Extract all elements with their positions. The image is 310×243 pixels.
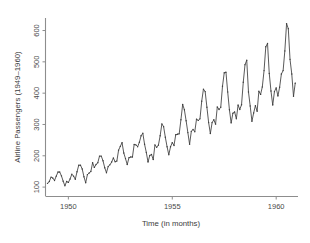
data-point (243, 82, 244, 83)
data-point (203, 88, 204, 89)
data-point (139, 142, 140, 143)
data-point (239, 109, 240, 110)
data-point (153, 159, 154, 160)
data-point (179, 133, 180, 134)
data-point (114, 161, 115, 162)
data-point (47, 183, 48, 184)
data-point (279, 87, 280, 88)
data-point (146, 152, 147, 153)
data-point (229, 109, 230, 110)
data-point (49, 181, 50, 182)
data-point (68, 182, 69, 183)
data-point (234, 111, 235, 112)
data-point (204, 91, 205, 92)
y-tick-label: 500 (32, 56, 41, 69)
data-point (121, 142, 122, 143)
data-point (185, 120, 186, 121)
data-point (101, 155, 102, 156)
data-point (256, 111, 257, 112)
data-point (128, 157, 129, 158)
data-point (275, 87, 276, 88)
data-point (104, 167, 105, 168)
y-axis-tick-labels: 100200300400500600 (32, 24, 41, 193)
data-point (99, 155, 100, 156)
data-point (265, 46, 266, 47)
data-point (206, 107, 207, 108)
y-tick-label: 100 (32, 181, 41, 194)
data-point (83, 176, 84, 177)
data-point (97, 162, 98, 163)
data-point (75, 179, 76, 180)
y-axis-title: Airline Passengers (1949–1960) (13, 51, 22, 163)
data-point (147, 161, 148, 162)
data-point (107, 166, 108, 167)
data-point (172, 142, 173, 143)
data-point (288, 28, 289, 29)
airline-passengers-line (48, 24, 296, 186)
data-point (198, 120, 199, 121)
data-point (73, 175, 74, 176)
data-point (159, 135, 160, 136)
data-point (111, 161, 112, 162)
data-point (213, 119, 214, 120)
data-point (175, 134, 176, 135)
data-point (154, 144, 155, 145)
data-point (251, 121, 252, 122)
data-point (163, 126, 164, 127)
chart-figure: 100200300400500600 195019551960 Airline … (0, 0, 310, 243)
data-point (230, 122, 231, 123)
data-point (191, 131, 192, 132)
data-point (250, 105, 251, 106)
data-point (187, 132, 188, 133)
data-point (220, 107, 221, 108)
data-point (232, 113, 233, 114)
data-point (201, 101, 202, 102)
data-point (95, 164, 96, 165)
data-point (50, 176, 51, 177)
data-point (210, 133, 211, 134)
data-point (144, 144, 145, 145)
data-point (158, 144, 159, 145)
data-point (180, 119, 181, 120)
data-point (102, 160, 103, 161)
data-point (281, 73, 282, 74)
x-axis-title: Time (in months) (142, 219, 201, 228)
data-point (248, 91, 249, 92)
data-point (255, 105, 256, 106)
y-tick-label: 600 (32, 24, 41, 37)
data-point (166, 146, 167, 147)
data-point (71, 174, 72, 175)
data-point (78, 164, 79, 165)
airline-passengers-markers (47, 23, 296, 187)
data-point (293, 96, 294, 97)
data-point (57, 171, 58, 172)
data-point (189, 144, 190, 145)
data-point (90, 171, 91, 172)
y-tick-label: 200 (32, 150, 41, 163)
data-point (211, 122, 212, 123)
data-point (295, 82, 296, 83)
data-point (127, 164, 128, 165)
data-point (263, 70, 264, 71)
data-point (184, 109, 185, 110)
data-point (192, 129, 193, 130)
x-tick-label: 1955 (164, 202, 181, 211)
data-point (237, 104, 238, 105)
x-tick-label: 1950 (60, 202, 77, 211)
data-point (149, 155, 150, 156)
data-point (253, 112, 254, 113)
data-point (270, 90, 271, 91)
y-tick-label: 300 (32, 118, 41, 131)
data-point (61, 175, 62, 176)
data-point (76, 171, 77, 172)
data-point (208, 122, 209, 123)
x-axis-tick-labels: 195019551960 (60, 202, 285, 211)
chart-plot-area: 100200300400500600 195019551960 Airline … (0, 0, 310, 243)
data-point (118, 149, 119, 150)
data-point (69, 178, 70, 179)
data-point (218, 109, 219, 110)
data-point (262, 86, 263, 87)
data-point (142, 133, 143, 134)
data-point (116, 160, 117, 161)
data-point (272, 104, 273, 105)
